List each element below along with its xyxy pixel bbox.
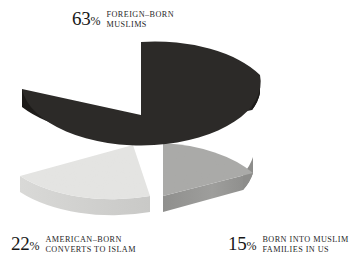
percent-symbol: % bbox=[29, 239, 39, 253]
callout-text-foreign-born: FOREIGN–BORN MUSLIMS bbox=[100, 8, 174, 30]
percent-value-american-converts: 22% bbox=[11, 233, 39, 256]
callout-muslim-families: 15% BORN INTO MUSLIM FAMILIES IN US bbox=[228, 233, 349, 256]
callout-line2: CONVERTS TO ISLAM bbox=[45, 245, 136, 255]
callout-line1: AMERICAN–BORN bbox=[45, 235, 121, 244]
callout-line1: FOREIGN–BORN bbox=[106, 10, 174, 19]
pie-slice-muslim-families[interactable] bbox=[163, 143, 253, 212]
percent-value-muslim-families: 15% bbox=[228, 233, 256, 256]
percent-value-foreign-born: 63% bbox=[72, 8, 100, 31]
callout-text-muslim-families: BORN INTO MUSLIM FAMILIES IN US bbox=[256, 233, 348, 255]
callout-text-american-converts: AMERICAN–BORN CONVERTS TO ISLAM bbox=[39, 233, 136, 255]
callout-line1: BORN INTO MUSLIM bbox=[262, 235, 348, 244]
pie-slice-american-converts[interactable] bbox=[20, 145, 150, 215]
pie-slice-foreign-born[interactable] bbox=[22, 42, 261, 146]
percent-symbol: % bbox=[90, 14, 100, 28]
percent-symbol: % bbox=[246, 239, 256, 253]
callout-foreign-born: 63% FOREIGN–BORN MUSLIMS bbox=[72, 8, 174, 31]
callout-line2: FAMILIES IN US bbox=[262, 245, 348, 255]
callout-line2: MUSLIMS bbox=[106, 20, 174, 30]
callout-american-converts: 22% AMERICAN–BORN CONVERTS TO ISLAM bbox=[11, 233, 136, 256]
